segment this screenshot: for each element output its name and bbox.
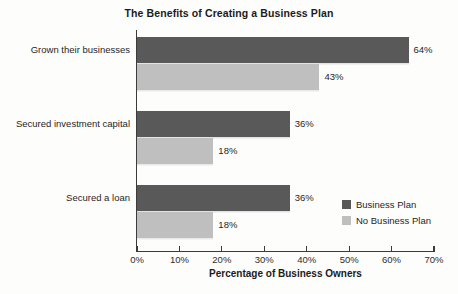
legend-label-no-business-plan: No Business Plan [356, 215, 431, 226]
bar-value-label: 18% [218, 219, 237, 230]
x-axis-tick-label: 60% [382, 254, 401, 265]
x-axis-tick [264, 246, 265, 252]
chart-title: The Benefits of Creating a Business Plan [0, 7, 458, 19]
x-axis-tick [306, 246, 307, 252]
bar-business-plan [137, 185, 290, 211]
x-axis-title: Percentage of Business Owners [136, 268, 435, 279]
legend-item-business-plan: Business Plan [342, 196, 431, 212]
y-axis-category-label: Secured investment capital [0, 118, 130, 129]
x-axis-tick-label: 40% [297, 254, 316, 265]
legend-swatch-business-plan [342, 200, 351, 209]
x-axis-tick-label: 0% [130, 254, 144, 265]
x-axis-tick-label: 30% [255, 254, 274, 265]
bar-value-label: 18% [218, 145, 237, 156]
x-axis-tick-label: 20% [212, 254, 231, 265]
x-axis-tick-label: 70% [424, 254, 443, 265]
x-axis-tick-label: 50% [340, 254, 359, 265]
bar-no-business-plan [137, 138, 213, 164]
bar-no-business-plan [137, 64, 319, 90]
x-axis-tick [349, 246, 350, 252]
x-axis-tick [391, 246, 392, 252]
bar-value-label: 36% [295, 118, 314, 129]
x-axis-tick [179, 246, 180, 252]
chart-legend: Business Plan No Business Plan [342, 196, 431, 228]
chart-container: The Benefits of Creating a Business Plan… [0, 0, 458, 294]
bar-no-business-plan [137, 212, 213, 238]
legend-label-business-plan: Business Plan [356, 199, 416, 210]
bar-value-label: 43% [324, 71, 343, 82]
bar-value-label: 64% [414, 44, 433, 55]
x-axis-tick [136, 246, 137, 252]
y-axis-category-label: Secured a loan [0, 192, 130, 203]
bar-business-plan [137, 111, 290, 137]
x-axis-tick [221, 246, 222, 252]
x-axis-tick [433, 246, 434, 252]
bar-business-plan [137, 37, 409, 63]
y-axis-category-label: Grown their businesses [0, 44, 130, 55]
legend-swatch-no-business-plan [342, 216, 351, 225]
bar-value-label: 36% [295, 192, 314, 203]
legend-item-no-business-plan: No Business Plan [342, 212, 431, 228]
x-axis-tick-label: 10% [170, 254, 189, 265]
